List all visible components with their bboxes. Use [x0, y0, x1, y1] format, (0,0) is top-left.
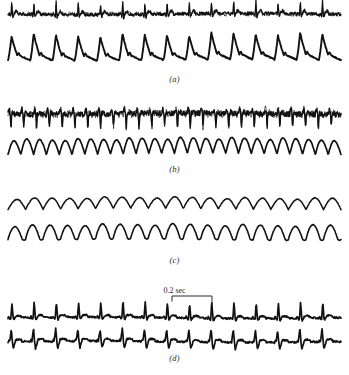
panel-d: (d)	[0, 298, 349, 375]
lower-trace-d	[8, 328, 341, 350]
panel-c: (c)	[0, 194, 349, 282]
lower-trace-c	[8, 224, 341, 241]
panel-b: (b)	[0, 96, 349, 188]
panel-d-traces	[0, 298, 349, 358]
panel-a-traces	[0, 0, 349, 84]
upper-trace-d	[8, 302, 341, 321]
panel-c-label: (c)	[0, 255, 349, 265]
upper-trace-c	[8, 197, 341, 210]
upper-trace-a-noise-overlay	[8, 2, 340, 19]
lower-trace-b	[8, 137, 341, 154]
panel-c-traces	[0, 194, 349, 260]
scale-bar-label: 0.2 sec	[0, 286, 349, 295]
upper-trace-b-noise-overlay	[8, 106, 340, 130]
lower-trace-a	[8, 32, 341, 60]
panel-a: (a)	[0, 0, 349, 96]
panel-b-traces	[0, 96, 349, 172]
panel-d-label: (d)	[0, 353, 349, 363]
physiological-recording-figure: (a) (b) (c) 0.2 sec (d)	[0, 0, 349, 375]
panel-a-label: (a)	[0, 74, 349, 84]
panel-b-label: (b)	[0, 164, 349, 174]
